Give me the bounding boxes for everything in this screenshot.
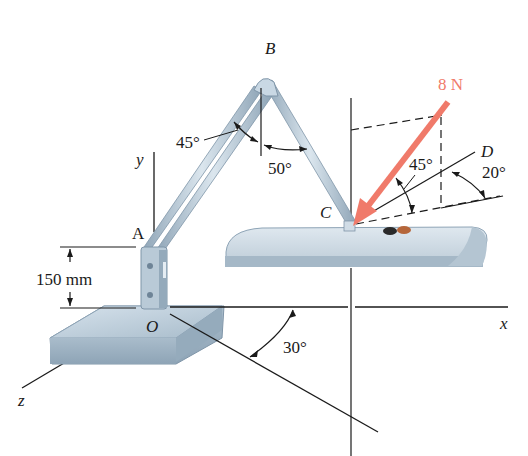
label-angle-20: 20° — [482, 163, 506, 182]
base-reference-line — [170, 314, 378, 432]
label-C: C — [320, 203, 332, 222]
label-force: 8 N — [438, 75, 463, 94]
label-B: B — [265, 39, 276, 58]
leader-45-C — [404, 175, 415, 189]
label-O: O — [146, 317, 158, 336]
arm-BC — [264, 80, 356, 226]
lamp-force-diagram: B 8 N 45° 50° y D 45° 20° C A 150 mm O x… — [0, 0, 528, 456]
force-arrow-8N — [353, 102, 448, 226]
label-angle-45-C: 45° — [409, 155, 433, 174]
label-angle-30: 30° — [283, 338, 307, 357]
label-angle-45-B: 45° — [176, 133, 200, 152]
label-D: D — [480, 142, 494, 161]
label-z-axis: z — [17, 391, 25, 410]
label-150mm: 150 mm — [36, 270, 92, 289]
joint-C — [344, 221, 355, 231]
arm-AB — [142, 86, 272, 252]
label-y-axis: y — [134, 150, 144, 169]
label-angle-50: 50° — [268, 159, 292, 178]
label-x-axis: x — [499, 314, 508, 333]
diagram-canvas: B 8 N 45° 50° y D 45° 20° C A 150 mm O x… — [0, 0, 528, 456]
lamp-shade — [225, 226, 487, 267]
label-A: A — [132, 224, 145, 243]
lamp-base — [50, 306, 224, 364]
upright-A — [141, 247, 167, 309]
